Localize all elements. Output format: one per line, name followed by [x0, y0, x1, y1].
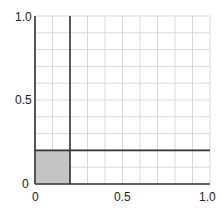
- unit-square-plot: [0, 0, 222, 211]
- y-tick-label-mid: 0.5: [15, 94, 32, 106]
- shaded-region: [35, 150, 70, 184]
- x-tick-label-mid: 0.5: [114, 191, 131, 203]
- x-tick-label-right: 1.0: [199, 191, 216, 203]
- y-tick-label-top: 1.0: [15, 11, 32, 23]
- y-tick-label-bottom: 0: [22, 178, 29, 190]
- x-tick-label-left: 0: [32, 191, 39, 203]
